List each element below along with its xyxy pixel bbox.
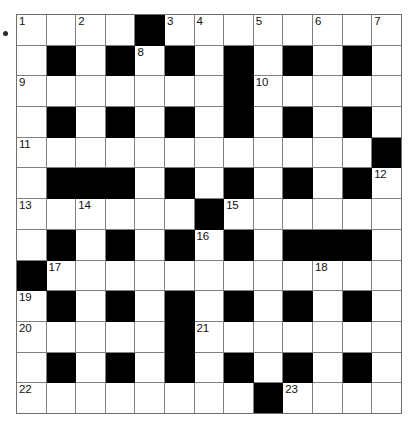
crossword-cell[interactable] xyxy=(372,107,402,138)
crossword-cell[interactable]: 5 xyxy=(253,15,283,46)
crossword-cell[interactable]: 20 xyxy=(17,321,47,352)
crossword-cell[interactable] xyxy=(105,321,135,352)
crossword-cell[interactable] xyxy=(372,76,402,107)
crossword-cell[interactable] xyxy=(46,137,76,168)
crossword-cell[interactable] xyxy=(342,76,372,107)
crossword-cell[interactable]: 14 xyxy=(76,199,106,230)
crossword-cell[interactable] xyxy=(135,168,165,199)
crossword-cell[interactable] xyxy=(135,107,165,138)
crossword-cell[interactable] xyxy=(253,260,283,291)
crossword-cell[interactable] xyxy=(283,260,313,291)
crossword-cell[interactable] xyxy=(164,383,194,414)
crossword-cell[interactable]: 19 xyxy=(17,291,47,322)
crossword-cell[interactable] xyxy=(372,45,402,76)
crossword-cell[interactable] xyxy=(76,260,106,291)
crossword-cell[interactable] xyxy=(164,260,194,291)
crossword-cell[interactable]: 18 xyxy=(312,260,342,291)
crossword-cell[interactable] xyxy=(342,260,372,291)
crossword-cell[interactable] xyxy=(46,199,76,230)
crossword-cell[interactable] xyxy=(312,45,342,76)
crossword-cell[interactable]: 10 xyxy=(253,76,283,107)
crossword-cell[interactable] xyxy=(17,107,47,138)
crossword-cell[interactable] xyxy=(135,137,165,168)
crossword-cell[interactable] xyxy=(372,229,402,260)
crossword-cell[interactable] xyxy=(76,45,106,76)
crossword-cell[interactable] xyxy=(224,260,254,291)
crossword-cell[interactable] xyxy=(253,229,283,260)
crossword-cell[interactable] xyxy=(194,383,224,414)
crossword-cell[interactable] xyxy=(194,260,224,291)
crossword-cell[interactable]: 8 xyxy=(135,45,165,76)
crossword-cell[interactable] xyxy=(312,321,342,352)
crossword-cell[interactable] xyxy=(312,76,342,107)
crossword-cell[interactable] xyxy=(224,15,254,46)
crossword-cell[interactable] xyxy=(135,291,165,322)
crossword-cell[interactable] xyxy=(312,383,342,414)
crossword-cell[interactable] xyxy=(76,137,106,168)
crossword-cell[interactable] xyxy=(253,352,283,383)
crossword-cell[interactable]: 12 xyxy=(372,168,402,199)
crossword-cell[interactable] xyxy=(17,352,47,383)
crossword-cell[interactable]: 21 xyxy=(194,321,224,352)
crossword-cell[interactable] xyxy=(76,229,106,260)
crossword-cell[interactable] xyxy=(135,199,165,230)
crossword-cell[interactable] xyxy=(76,383,106,414)
crossword-cell[interactable] xyxy=(46,321,76,352)
crossword-cell[interactable] xyxy=(76,321,106,352)
crossword-cell[interactable] xyxy=(76,107,106,138)
crossword-cell[interactable] xyxy=(253,45,283,76)
crossword-cell[interactable] xyxy=(283,321,313,352)
crossword-cell[interactable] xyxy=(46,15,76,46)
crossword-cell[interactable] xyxy=(17,168,47,199)
crossword-cell[interactable] xyxy=(372,199,402,230)
crossword-cell[interactable] xyxy=(17,229,47,260)
crossword-cell[interactable] xyxy=(164,137,194,168)
crossword-cell[interactable] xyxy=(46,383,76,414)
crossword-cell[interactable] xyxy=(105,137,135,168)
crossword-cell[interactable] xyxy=(312,291,342,322)
crossword-cell[interactable] xyxy=(253,168,283,199)
crossword-cell[interactable] xyxy=(105,383,135,414)
crossword-cell[interactable] xyxy=(312,107,342,138)
crossword-cell[interactable] xyxy=(135,383,165,414)
crossword-cell[interactable] xyxy=(76,76,106,107)
crossword-cell[interactable] xyxy=(372,291,402,322)
crossword-cell[interactable] xyxy=(135,229,165,260)
crossword-cell[interactable] xyxy=(342,321,372,352)
crossword-cell[interactable]: 16 xyxy=(194,229,224,260)
crossword-cell[interactable]: 11 xyxy=(17,137,47,168)
crossword-cell[interactable] xyxy=(253,137,283,168)
crossword-cell[interactable] xyxy=(224,137,254,168)
crossword-cell[interactable] xyxy=(312,137,342,168)
crossword-cell[interactable] xyxy=(17,45,47,76)
crossword-cell[interactable]: 1 xyxy=(17,15,47,46)
crossword-cell[interactable] xyxy=(135,76,165,107)
crossword-cell[interactable] xyxy=(283,137,313,168)
crossword-cell[interactable] xyxy=(135,260,165,291)
crossword-cell[interactable] xyxy=(253,199,283,230)
crossword-cell[interactable] xyxy=(135,352,165,383)
crossword-cell[interactable] xyxy=(342,199,372,230)
crossword-cell[interactable] xyxy=(342,383,372,414)
crossword-cell[interactable] xyxy=(342,15,372,46)
crossword-cell[interactable] xyxy=(194,291,224,322)
crossword-cell[interactable] xyxy=(283,15,313,46)
crossword-cell[interactable] xyxy=(76,352,106,383)
crossword-cell[interactable]: 13 xyxy=(17,199,47,230)
crossword-cell[interactable] xyxy=(105,76,135,107)
crossword-cell[interactable] xyxy=(135,321,165,352)
crossword-cell[interactable] xyxy=(372,352,402,383)
crossword-cell[interactable] xyxy=(194,352,224,383)
crossword-cell[interactable]: 17 xyxy=(46,260,76,291)
crossword-cell[interactable] xyxy=(164,199,194,230)
crossword-cell[interactable] xyxy=(194,168,224,199)
crossword-cell[interactable] xyxy=(105,199,135,230)
crossword-cell[interactable] xyxy=(312,199,342,230)
crossword-cell[interactable] xyxy=(312,352,342,383)
crossword-cell[interactable] xyxy=(194,45,224,76)
crossword-cell[interactable]: 2 xyxy=(76,15,106,46)
crossword-cell[interactable] xyxy=(312,168,342,199)
crossword-cell[interactable] xyxy=(46,76,76,107)
crossword-cell[interactable] xyxy=(253,107,283,138)
crossword-cell[interactable] xyxy=(253,321,283,352)
